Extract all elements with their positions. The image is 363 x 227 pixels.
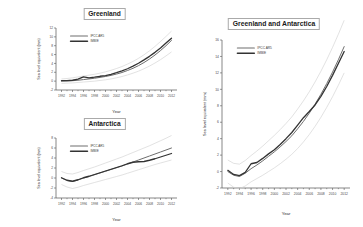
legend-antarctica: IPCC AR5IMBIE <box>71 144 105 153</box>
panel-title-antarctica: Antarctica <box>83 118 125 130</box>
legend-label: IMBIE <box>91 149 99 153</box>
x-tick-label: 1992 <box>224 192 232 196</box>
y-tick-label: 6 <box>51 53 53 57</box>
y-tick-label: 4 <box>51 156 53 160</box>
y-axis-title: Sea level equivalent (mm) <box>37 147 41 189</box>
legend-label: IPCC AR5 <box>91 34 105 38</box>
y-tick-label: 0 <box>217 170 219 174</box>
x-tick-label: 2008 <box>317 192 325 196</box>
x-tick-label: 2004 <box>124 202 131 206</box>
y-tick-label: 6 <box>51 146 53 150</box>
y-tick-label: 0 <box>51 176 53 180</box>
x-tick-label: 1998 <box>91 202 98 206</box>
panel-title-greenland: Greenland <box>83 8 126 20</box>
x-tick-label: 1996 <box>80 94 87 98</box>
x-tick-label: 2010 <box>157 94 164 98</box>
y-tick-label: 4 <box>217 137 219 141</box>
y-axis-title: Sea level equivalent (mm) <box>203 91 207 136</box>
x-tick-label: 2006 <box>305 192 313 196</box>
plot-area-greenland: -202468101219921994199619982000200220042… <box>22 8 187 116</box>
y-tick-label: 0 <box>51 79 53 83</box>
series-line-imbie <box>62 154 172 182</box>
uncertainty-envelope <box>62 31 172 83</box>
y-tick-label: 8 <box>51 44 53 48</box>
x-tick-label: 1992 <box>58 94 65 98</box>
x-axis-title: Year <box>112 109 121 114</box>
axes-greenland-and-antarctica: -202468101214161992199419961998200020022… <box>215 38 350 195</box>
x-tick-label: 1994 <box>236 192 244 196</box>
x-tick-label: 1998 <box>91 94 98 98</box>
y-tick-label: 10 <box>215 88 219 92</box>
x-tick-label: 1992 <box>58 202 65 206</box>
axes-antarctica: -4-2024681992199419961998200020022004200… <box>50 136 177 205</box>
y-tick-label: -2 <box>50 88 53 92</box>
series-line-ipcc-ar5 <box>228 47 344 177</box>
y-tick-label: 12 <box>215 71 219 75</box>
chart-panel-greenland-and-antarctica: Greenland and Antarctica-202468101214161… <box>186 18 362 218</box>
uncertainty-envelope <box>228 20 344 189</box>
legend-label: IMBIE <box>257 51 266 55</box>
x-tick-label: 2002 <box>282 192 290 196</box>
panel-title-greenland-and-antarctica: Greenland and Antarctica <box>228 18 320 30</box>
y-tick-label: 2 <box>217 153 219 157</box>
legend-label: IPCC AR5 <box>257 46 272 50</box>
x-tick-label: 2008 <box>146 94 153 98</box>
x-tick-label: 1994 <box>69 202 76 206</box>
x-tick-label: 2010 <box>329 192 337 196</box>
y-tick-label: 8 <box>217 104 219 108</box>
x-tick-label: 2000 <box>271 192 279 196</box>
x-tick-label: 2012 <box>340 192 348 196</box>
axes-greenland: -202468101219921994199619982000200220042… <box>49 26 177 97</box>
y-tick-label: 12 <box>49 26 53 30</box>
y-tick-label: 8 <box>51 136 53 140</box>
x-tick-label: 2012 <box>168 202 175 206</box>
x-tick-label: 2000 <box>102 202 109 206</box>
chart-panel-greenland: Greenland-202468101219921994199619982000… <box>22 8 187 116</box>
x-axis-title: Year <box>112 217 121 222</box>
y-tick-label: 14 <box>215 55 219 59</box>
series-line-imbie <box>228 52 344 176</box>
x-tick-label: 2000 <box>102 94 109 98</box>
x-tick-label: 2006 <box>135 202 142 206</box>
figure-canvas: Greenland-202468101219921994199619982000… <box>0 0 363 227</box>
legend-greenland: IPCC AR5IMBIE <box>71 34 105 43</box>
x-tick-label: 1998 <box>259 192 267 196</box>
x-axis-title: Year <box>282 211 291 216</box>
x-tick-label: 2004 <box>124 94 131 98</box>
x-tick-label: 1996 <box>247 192 255 196</box>
y-tick-label: 6 <box>217 120 219 124</box>
x-tick-label: 2002 <box>113 94 120 98</box>
y-tick-label: 2 <box>51 70 53 74</box>
legend-label: IPCC AR5 <box>91 144 105 148</box>
legend-label: IMBIE <box>91 39 99 43</box>
y-tick-label: -4 <box>50 196 53 200</box>
plot-area-antarctica: -4-2024681992199419961998200020022004200… <box>22 118 187 224</box>
x-tick-label: 2004 <box>294 192 302 196</box>
x-tick-label: 2006 <box>135 94 142 98</box>
y-tick-label: 2 <box>51 166 53 170</box>
y-tick-label: 4 <box>51 62 53 66</box>
legend-greenland-and-antarctica: IPCC AR5IMBIE <box>237 46 272 55</box>
chart-panel-antarctica: Antarctica-4-202468199219941996199820002… <box>22 118 187 224</box>
x-tick-label: 2010 <box>157 202 164 206</box>
x-tick-label: 2002 <box>113 202 120 206</box>
y-tick-label: -2 <box>216 186 219 190</box>
y-tick-label: 10 <box>49 35 53 39</box>
x-tick-label: 1994 <box>69 94 76 98</box>
x-tick-label: 2008 <box>146 202 153 206</box>
uncertainty-envelope <box>62 136 172 189</box>
plot-area-greenland-and-antarctica: -202468101214161992199419961998200020022… <box>186 18 362 218</box>
y-axis-title: Sea level equivalent (mm) <box>37 38 41 80</box>
x-tick-label: 1996 <box>80 202 87 206</box>
y-tick-label: 16 <box>215 38 219 42</box>
y-tick-label: -2 <box>50 186 53 190</box>
x-tick-label: 2012 <box>168 94 175 98</box>
